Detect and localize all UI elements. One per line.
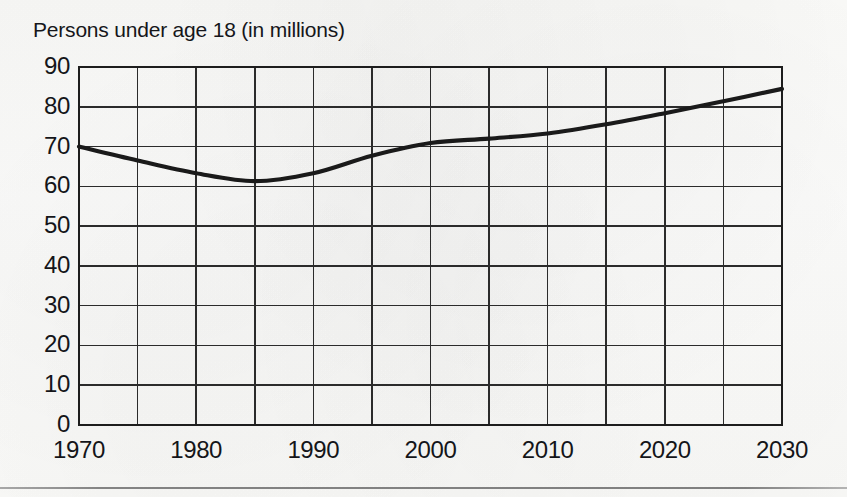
x-axis-tick-1970: 1970 (19, 438, 139, 462)
y-axis-tick-80: 80 (8, 94, 70, 118)
y-axis-tick-50: 50 (8, 213, 70, 237)
y-axis-tick-90: 90 (8, 54, 70, 78)
x-axis-tick-2020: 2020 (605, 438, 725, 462)
y-axis-tick-10: 10 (8, 372, 70, 396)
y-axis-tick-40: 40 (8, 253, 70, 277)
x-axis-tick-1980: 1980 (136, 438, 256, 462)
x-axis-tick-2000: 2000 (371, 438, 491, 462)
y-axis-tick-60: 60 (8, 173, 70, 197)
footer-rule (0, 487, 847, 489)
line-chart-plot (0, 0, 847, 497)
y-axis-tick-30: 30 (8, 293, 70, 317)
x-axis-tick-2030: 2030 (722, 438, 842, 462)
x-axis-tick-1990: 1990 (253, 438, 373, 462)
y-axis-tick-20: 20 (8, 332, 70, 356)
grid-lines (79, 67, 782, 425)
y-axis-tick-0: 0 (8, 412, 70, 436)
x-axis-tick-2010: 2010 (488, 438, 608, 462)
chart-page: Persons under age 18 (in millions) 90807… (0, 0, 847, 497)
y-axis-tick-70: 70 (8, 134, 70, 158)
